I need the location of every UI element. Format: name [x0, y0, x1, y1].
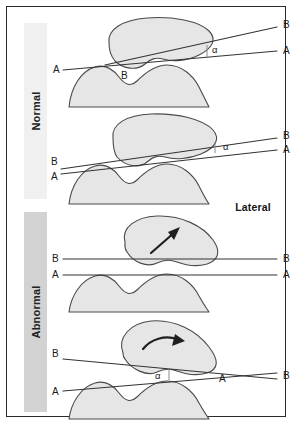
group-label-normal: Normal — [30, 91, 42, 130]
label-a-left-panel3: A — [52, 269, 59, 280]
label-b-right-panel1: B — [283, 19, 290, 30]
panel-normal-2: B A B A α — [47, 112, 292, 208]
label-a-left-panel2: A — [51, 171, 58, 182]
group-band-normal: Normal — [24, 23, 47, 199]
label-b-left-panel3: B — [52, 253, 59, 264]
femoral-condyles-shape — [69, 381, 209, 419]
patella-shape — [122, 321, 217, 375]
label-a-left-panel4: A — [52, 386, 59, 397]
label-b-right-panel3: B — [283, 253, 290, 264]
group-band-abnormal: Abnormal — [24, 212, 47, 412]
patella-shape — [124, 216, 217, 266]
label-b-left-panel2: B — [51, 156, 58, 167]
figure-frame: Normal Abnormal Lateral A A B B α — [6, 6, 286, 417]
label-b-right-panel4: B — [283, 370, 290, 381]
figure-container: Normal Abnormal Lateral A A B B α — [0, 0, 292, 423]
panel-abnormal-1: B B A A — [47, 212, 292, 316]
femoral-condyles-shape — [69, 164, 209, 204]
femoral-condyles-shape — [69, 65, 209, 107]
label-a-right-panel3: A — [283, 269, 290, 280]
label-a-right-panel1: A — [283, 45, 290, 56]
femoral-condyles-shape — [69, 274, 209, 312]
label-a-inner-panel4: A — [219, 373, 226, 384]
label-alpha-panel2: α — [223, 141, 229, 152]
label-b-left-panel4: B — [52, 348, 59, 359]
label-a-right-panel2: A — [283, 144, 290, 155]
label-alpha-panel4: α — [155, 370, 161, 381]
label-b-right-panel2: B — [283, 130, 290, 141]
panel-abnormal-2: B A A B α — [47, 317, 292, 423]
panel-normal-1: A A B B α — [47, 15, 292, 115]
label-alpha-panel1: α — [212, 44, 218, 55]
label-b-inner-panel1: B — [121, 70, 128, 81]
group-label-abnormal: Abnormal — [30, 286, 42, 339]
label-a-left-panel1: A — [53, 64, 60, 75]
